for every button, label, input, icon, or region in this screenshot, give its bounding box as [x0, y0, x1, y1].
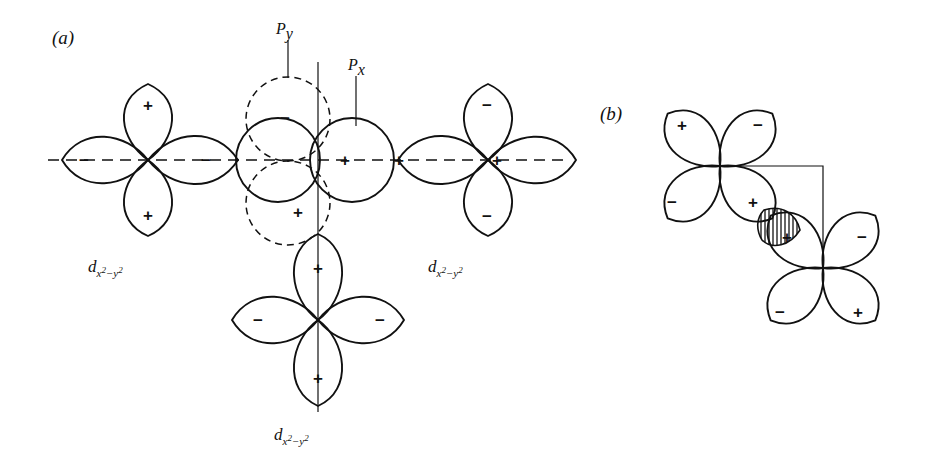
left-d-bottom-lobe-sign: +	[143, 206, 153, 225]
left-d-inner-lobe-sign: −	[201, 151, 211, 170]
lower-d-lower-right-lobe	[755, 252, 839, 336]
bottom-d-bottom-lobe-sign: +	[313, 369, 323, 388]
left-d-orbital-label: dx2−y2	[88, 257, 123, 279]
right-d-outer-lobe-sign: +	[492, 151, 502, 170]
px-orbital	[236, 118, 394, 202]
px-right-lobe-sign: +	[340, 151, 350, 170]
orbital-overlap-diagram: (a) dx2−y2	[0, 0, 929, 475]
upper-d-upper-right-lobe-sign: −	[753, 116, 763, 135]
upper-d-upper-left-lobe-sign: +	[677, 116, 687, 135]
bottom-d-left-lobe	[232, 297, 318, 344]
lower-d-upper-right-lobe	[807, 252, 891, 336]
px-label-sub: x	[357, 61, 365, 78]
panel-a-sign-group: + + − − − + + + + − − + − − +	[79, 96, 502, 388]
right-d-top-lobe-sign: −	[482, 96, 492, 115]
lower-d-upper-left-lobe	[807, 200, 891, 284]
figure-root: (a) dx2−y2	[0, 0, 929, 475]
bottom-d-orbital-label: dx2−y2	[274, 425, 309, 447]
py-label: Py	[275, 20, 294, 43]
left-d-label-minus: −	[106, 267, 113, 279]
upper-d-upper-left-lobe	[704, 98, 788, 182]
px-label-base: P	[347, 56, 358, 73]
lower-d-lower-right-lobe-sign: +	[853, 303, 863, 322]
bottom-d-label-sup2: 2	[304, 433, 309, 443]
bottom-d-top-lobe-sign: +	[313, 259, 323, 278]
upper-d-lower-left-lobe	[652, 98, 736, 182]
right-d-label-minus: −	[446, 267, 453, 279]
right-d-orbital-label: dx2−y2	[428, 257, 463, 279]
left-d-top-lobe-sign: +	[143, 96, 153, 115]
py-upper-lobe-sign: −	[280, 109, 290, 128]
bottom-d-left-lobe-sign: −	[253, 311, 263, 330]
panel-a: (a) dx2−y2	[48, 20, 576, 447]
lower-d-lower-left-lobe-sign: −	[775, 303, 785, 322]
upper-d-lower-right-lobe	[652, 150, 736, 234]
upper-d-lower-right-lobe-sign: +	[748, 193, 758, 212]
lower-d-upper-left-lobe-sign: +	[782, 228, 792, 247]
py-label-base: P	[275, 20, 286, 37]
right-d-bottom-lobe-sign: −	[482, 207, 492, 226]
bottom-d-right-lobe	[318, 297, 404, 344]
py-lower-lobe-sign: +	[293, 203, 303, 222]
right-d-label-sup2: 2	[458, 265, 463, 275]
upper-d-lower-left-lobe-sign: −	[667, 193, 677, 212]
left-d-outer-lobe-sign: −	[79, 151, 89, 170]
py-label-sub: y	[284, 25, 294, 43]
lower-d-upper-right-lobe-sign: −	[857, 228, 867, 247]
px-label: Px	[347, 56, 365, 78]
panel-b-label: (b)	[600, 103, 622, 125]
panel-a-label: (a)	[52, 27, 74, 49]
left-d-label-sup2: 2	[118, 265, 123, 275]
panel-b: (b) + − −	[600, 61, 928, 372]
left-d-bottom-lobe	[124, 160, 172, 236]
bottom-d-right-lobe-sign: −	[375, 311, 385, 330]
center-right-lobe-sign: +	[394, 151, 404, 170]
bottom-d-label-minus: −	[292, 435, 299, 447]
